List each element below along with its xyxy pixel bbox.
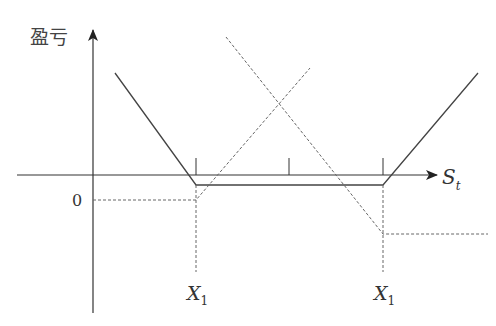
combined-payoff-line xyxy=(115,73,478,185)
left-strike-label-sub: 1 xyxy=(201,294,209,308)
put-payoff-dashed-line xyxy=(226,37,488,234)
right-strike-label: X1 xyxy=(372,282,395,308)
x-axis-label-main: S xyxy=(442,165,456,189)
right-strike-label-sub: 1 xyxy=(388,294,396,308)
x-axis-label-sub: t xyxy=(456,179,461,193)
left-strike-label-main: X xyxy=(185,282,202,304)
payoff-diagram: 盈亏 0 St X1 X1 xyxy=(0,0,496,326)
x-axis-label: St xyxy=(442,165,461,193)
origin-label: 0 xyxy=(72,191,82,210)
left-strike-label: X1 xyxy=(185,282,208,308)
right-strike-label-main: X xyxy=(372,282,389,304)
y-axis-label: 盈亏 xyxy=(30,26,68,48)
